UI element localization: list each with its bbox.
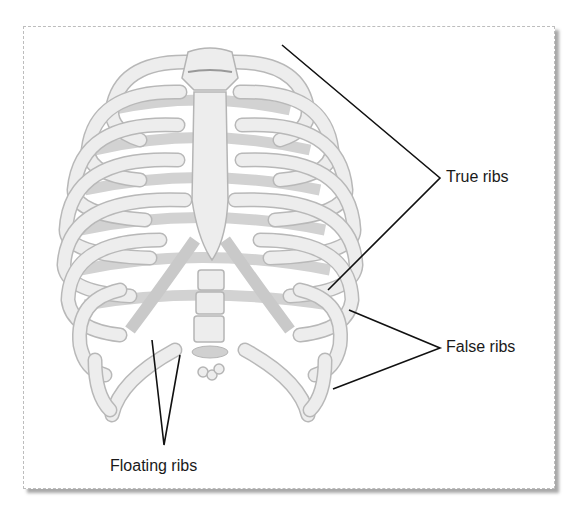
- spine: [192, 270, 228, 380]
- rib-cage-illustration: .rib{fill:none;stroke:#b8b8b8;stroke-wid…: [0, 0, 588, 523]
- sternum: [182, 48, 238, 260]
- right-ribs: [230, 62, 356, 415]
- floating-ribs-label: Floating ribs: [110, 457, 197, 475]
- true-ribs-label: True ribs: [446, 168, 509, 186]
- left-ribs: [64, 62, 190, 415]
- false-ribs-label: False ribs: [446, 338, 515, 356]
